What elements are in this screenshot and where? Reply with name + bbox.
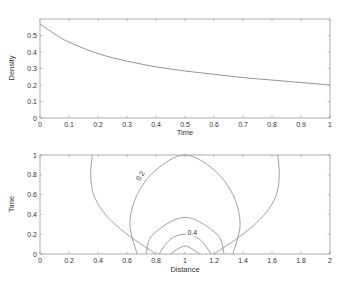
density-plot: 00.10.20.30.40.50.60.70.80.9100.10.20.30… [27, 19, 332, 128]
x-tick-label: 1.8 [296, 257, 306, 264]
x-tick-label: 0.4 [93, 257, 103, 264]
axes-frame [40, 19, 330, 118]
bottom-y-axis-label: Time [7, 196, 16, 212]
bottom-x-axis-label: Distance [170, 265, 199, 274]
y-tick-label: 0.8 [27, 171, 37, 178]
y-tick-label: 0.4 [27, 211, 37, 218]
contour-plot: 00.20.40.60.811.21.41.61.8200.20.40.60.8… [27, 152, 332, 265]
x-tick-label: 0.8 [267, 121, 277, 128]
y-tick-label: 0.2 [27, 231, 37, 238]
x-tick-label: 1.6 [267, 257, 277, 264]
x-tick-label: 1 [183, 257, 187, 264]
y-tick-label: 0.2 [27, 82, 37, 89]
x-tick-label: 0.3 [122, 121, 132, 128]
x-tick-label: 0.2 [93, 121, 103, 128]
figure: 00.10.20.30.40.50.60.70.80.9100.10.20.30… [0, 0, 347, 285]
x-tick-label: 0.5 [180, 121, 190, 128]
contour-line [146, 217, 224, 254]
x-tick-label: 0 [38, 257, 42, 264]
y-tick-label: 0 [33, 115, 37, 122]
y-tick-label: 0 [33, 251, 37, 258]
y-tick-label: 0.4 [27, 49, 37, 56]
x-tick-label: 1.4 [238, 257, 248, 264]
density-line [40, 24, 330, 85]
y-tick-label: 0.6 [27, 191, 37, 198]
axes-frame [40, 155, 330, 254]
y-tick-label: 1 [33, 152, 37, 159]
x-tick-label: 1.2 [209, 257, 219, 264]
contour-line [91, 155, 156, 254]
top-y-axis-label: Density [7, 55, 16, 80]
x-tick-label: 0.8 [151, 257, 161, 264]
top-x-axis-label: Time [177, 128, 193, 137]
contour-line [130, 155, 240, 254]
x-tick-label: 0.1 [64, 121, 74, 128]
contour-line [214, 155, 279, 254]
y-tick-label: 0.3 [27, 65, 37, 72]
y-tick-label: 0.1 [27, 98, 37, 105]
x-tick-label: 0.9 [296, 121, 306, 128]
x-tick-label: 0.6 [122, 257, 132, 264]
contour-label: 0.2 [135, 170, 146, 182]
contour-label: 0.4 [187, 229, 197, 236]
x-tick-label: 0.2 [64, 257, 74, 264]
x-tick-label: 0 [38, 121, 42, 128]
y-tick-label: 0.5 [27, 32, 37, 39]
x-tick-label: 1 [328, 121, 332, 128]
x-tick-label: 2 [328, 257, 332, 264]
x-tick-label: 0.7 [238, 121, 248, 128]
x-tick-label: 0.4 [151, 121, 161, 128]
x-tick-label: 0.6 [209, 121, 219, 128]
contour-line [159, 234, 211, 254]
